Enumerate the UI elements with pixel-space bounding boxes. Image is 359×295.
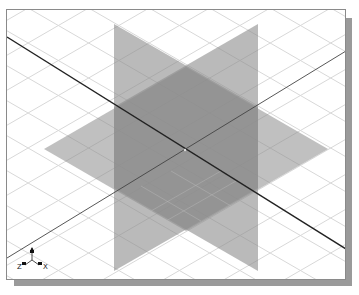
triad-z-label: Z bbox=[17, 263, 22, 271]
isometric-scene[interactable]: Z X bbox=[6, 9, 346, 280]
triad-z-arrow-icon bbox=[22, 262, 26, 265]
axis-triad: Z X bbox=[17, 247, 48, 271]
viewport-shadow-bottom bbox=[14, 279, 352, 286]
viewport-shadow-right bbox=[345, 18, 352, 286]
triad-x-label: X bbox=[43, 263, 48, 271]
origin-point bbox=[184, 149, 186, 151]
triad-x-arrow-icon bbox=[38, 262, 42, 265]
graphics-viewport[interactable]: Z X bbox=[6, 9, 346, 280]
